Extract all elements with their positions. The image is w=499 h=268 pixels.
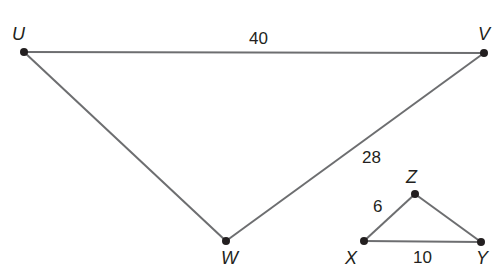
label-u: U	[12, 24, 26, 44]
side-vw	[226, 53, 484, 241]
label-v: V	[478, 24, 492, 44]
side-zy	[415, 194, 481, 242]
label-x: X	[344, 248, 358, 268]
point-u	[20, 48, 28, 56]
length-uv: 40	[249, 29, 268, 48]
label-w: W	[221, 248, 240, 268]
side-xz	[364, 194, 415, 241]
label-z: Z	[405, 167, 418, 187]
length-xy: 10	[413, 248, 432, 267]
point-x	[360, 237, 368, 245]
side-xy	[364, 241, 481, 242]
side-uw	[24, 52, 226, 241]
triangles-figure: U V W 40 28 X Y Z 6 10	[0, 0, 499, 268]
point-w	[222, 237, 230, 245]
point-z	[411, 190, 419, 198]
point-y	[477, 238, 485, 246]
side-uv	[24, 52, 484, 53]
point-v	[480, 49, 488, 57]
triangle-uvw: U V W 40 28	[12, 24, 492, 268]
triangle-xyz: X Y Z 6 10	[344, 167, 490, 268]
label-y: Y	[476, 248, 490, 268]
length-vw: 28	[362, 148, 381, 167]
diagram-canvas: U V W 40 28 X Y Z 6 10	[0, 0, 499, 268]
length-xz: 6	[373, 197, 382, 216]
